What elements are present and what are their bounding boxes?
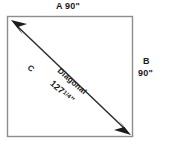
side-a-label: A 90" [56,2,80,11]
side-b-letter-label: B [143,57,150,66]
side-b-value-label: 90" [138,69,153,78]
diagram-canvas: A 90" B 90" C Diagonal 1271/4" [0,0,169,147]
